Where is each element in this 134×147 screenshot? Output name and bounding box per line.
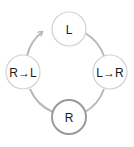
node-l-to-r-label: L→R	[96, 66, 124, 80]
edge-bottom-to-left	[30, 89, 53, 112]
node-r: R	[52, 100, 86, 134]
node-r-label: R	[65, 111, 74, 125]
edge-left-to-top-arrow	[27, 32, 42, 56]
cycle-diagram: L L→R R R→L	[0, 0, 134, 147]
node-l-to-r: L→R	[93, 55, 127, 89]
edge-top-to-right	[85, 33, 104, 56]
node-r-to-l: R→L	[6, 55, 40, 89]
edge-right-to-bottom	[85, 89, 104, 112]
node-r-to-l-label: R→L	[9, 66, 37, 80]
node-l-label: L	[66, 23, 73, 37]
node-l: L	[52, 12, 86, 46]
